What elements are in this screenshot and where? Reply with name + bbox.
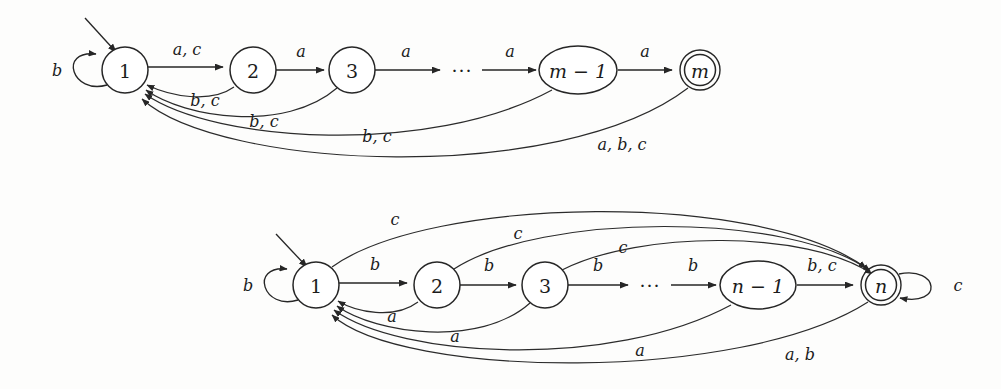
state-label-2-top: 2	[247, 60, 259, 82]
edge-label-self-loop-bottom: b	[243, 276, 253, 295]
edge-label-2-to-3-bottom: b	[484, 256, 494, 275]
edge-label-m1-to-m-top: a	[640, 42, 650, 61]
edge-label-3-to-ellipsis-top: a	[401, 42, 411, 61]
edge-label-n1-to-n-bottom: b, c	[807, 256, 836, 275]
edge-3-to-1-top	[146, 88, 337, 117]
start-arrow-top	[85, 18, 116, 52]
edge-label-ellipsis-to-n1-bottom: b	[688, 256, 698, 275]
edge-label-2-to-3-top: a	[296, 42, 306, 61]
state-label-n-bottom: n	[875, 275, 887, 297]
edge-label-3-to-n-bottom: c	[619, 238, 628, 257]
automaton-n-group: b c b b b b b, c c c	[243, 210, 963, 364]
edge-self-loop-state-n-bottom	[899, 273, 931, 299]
edge-label-2-to-1-bottom: a	[387, 307, 397, 326]
state-label-m-minus-1-top: m − 1	[549, 60, 607, 82]
state-label-n-minus-1-bottom: n − 1	[732, 275, 784, 297]
edge-label-2-to-1-top: b, c	[190, 91, 219, 110]
ellipsis-top: ···	[451, 59, 472, 81]
edge-label-1-to-n-bottom: c	[391, 210, 400, 229]
edge-label-self-loop-top: b	[52, 61, 62, 80]
edge-2-to-1-bottom	[338, 301, 418, 313]
diagram-canvas: b a, c a a a a b, c b, c b, c	[0, 0, 1001, 389]
edge-label-m-to-1-top: a, b, c	[597, 135, 646, 154]
edge-label-2-to-n-bottom: c	[514, 224, 523, 243]
edge-label-n1-to-1-bottom: a	[635, 341, 645, 360]
automata-figure: b a, c a a a a b, c b, c b, c	[0, 0, 1001, 389]
start-arrow-bottom	[276, 234, 307, 267]
state-label-1-top: 1	[119, 60, 131, 82]
state-label-3-top: 3	[346, 60, 358, 82]
edge-label-self-loop-n-bottom: c	[954, 276, 963, 295]
edge-label-3-to-1-bottom: a	[450, 327, 460, 346]
edge-label-3-to-ellipsis-bottom: b	[593, 256, 603, 275]
state-label-m-top: m	[691, 60, 709, 82]
automaton-m-group: b a, c a a a a b, c b, c b, c	[52, 18, 720, 157]
edge-label-1-to-2-bottom: b	[370, 255, 380, 274]
state-label-2-bottom: 2	[431, 275, 443, 297]
edge-label-n-to-1-bottom: a, b	[785, 345, 815, 364]
ellipsis-bottom: ···	[639, 274, 660, 296]
edge-label-3-to-1-top: b, c	[249, 112, 278, 131]
state-label-3-bottom: 3	[539, 275, 551, 297]
state-label-1-bottom: 1	[310, 275, 322, 297]
edge-label-m1-to-1-top: b, c	[362, 127, 391, 146]
edge-label-1-to-2-top: a, c	[173, 40, 202, 59]
edge-label-ellipsis-to-m1-top: a	[505, 42, 515, 61]
